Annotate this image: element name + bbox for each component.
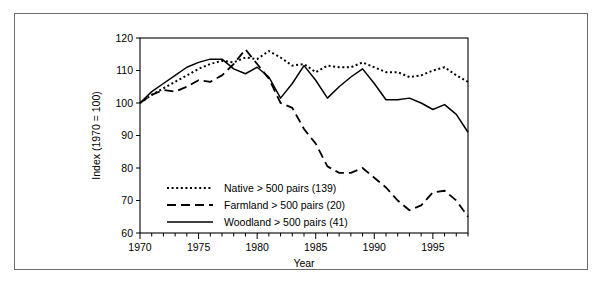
y-tick-label: 120 — [115, 32, 133, 44]
x-axis-title: Year — [293, 257, 315, 269]
x-tick-label: 1980 — [245, 241, 269, 253]
x-tick-label: 1995 — [421, 241, 445, 253]
y-tick-label: 90 — [121, 129, 133, 141]
legend-label-2: Woodland > 500 pairs (41) — [224, 216, 348, 228]
legend-label-1: Farmland > 500 pairs (20) — [224, 199, 345, 211]
y-tick-label: 70 — [121, 194, 133, 206]
legend-label-0: Native > 500 pairs (139) — [224, 182, 336, 194]
figure-border: 6070809010011012019701975198019851990199… — [14, 13, 588, 270]
x-tick-label: 1975 — [187, 241, 211, 253]
x-tick-label: 1990 — [363, 241, 387, 253]
y-tick-label: 110 — [116, 64, 133, 76]
series-line-0 — [140, 51, 468, 103]
y-tick-label: 80 — [121, 162, 133, 174]
x-tick-label: 1970 — [128, 241, 152, 253]
series-line-2 — [140, 59, 468, 132]
x-tick-label: 1985 — [304, 241, 328, 253]
y-axis-title: Index (1970 = 100) — [90, 91, 102, 179]
y-tick-label: 100 — [115, 97, 133, 109]
line-chart: 6070809010011012019701975198019851990199… — [15, 14, 587, 269]
y-tick-label: 60 — [121, 227, 133, 239]
